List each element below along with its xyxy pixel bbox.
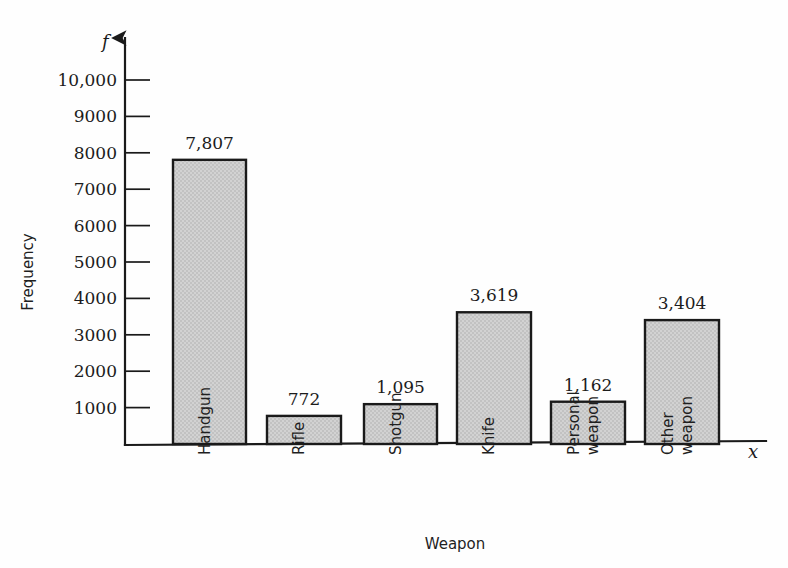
- y-tick-label: 1000: [74, 398, 117, 418]
- y-axis-title: Frequency: [19, 233, 37, 311]
- x-category-label: Knife: [480, 417, 498, 455]
- bar-chart-figure: f x 100020003000400050006000700080009000…: [0, 0, 788, 568]
- y-tick-label: 10,000: [58, 70, 117, 90]
- bars-group: 7,8077721,0953,6191,1623,404: [173, 133, 719, 444]
- y-tick-label: 6000: [74, 216, 117, 236]
- y-tick-label: 9000: [74, 106, 117, 126]
- y-tick-label: 5000: [74, 252, 117, 272]
- y-tick-label: 7000: [74, 179, 117, 199]
- x-category-label: Handgun: [196, 387, 214, 455]
- x-axis-variable-label: x: [748, 441, 758, 462]
- bar-value-label: 3,404: [658, 293, 707, 313]
- x-category-label: Shotgun: [387, 392, 405, 455]
- x-category-label: Rifle: [290, 422, 308, 455]
- bar-value-label: 772: [288, 389, 320, 409]
- x-category-label: Other: [659, 412, 677, 455]
- y-tick-label: 3000: [74, 325, 117, 345]
- y-tick-label: 8000: [74, 143, 117, 163]
- chart-canvas: f x 100020003000400050006000700080009000…: [0, 0, 788, 568]
- y-axis-variable-label: f: [100, 31, 112, 52]
- x-axis-title: Weapon: [425, 535, 486, 553]
- x-category-label: weapon: [584, 396, 602, 455]
- bar-value-label: 7,807: [185, 133, 234, 153]
- x-category-label: Personal: [565, 391, 583, 455]
- x-category-label: weapon: [678, 396, 696, 455]
- bar-value-label: 3,619: [470, 285, 519, 305]
- y-tick-label: 4000: [74, 288, 117, 308]
- y-tick-label: 2000: [74, 361, 117, 381]
- y-axis-ticks: 10002000300040005000600070008000900010,0…: [58, 70, 150, 418]
